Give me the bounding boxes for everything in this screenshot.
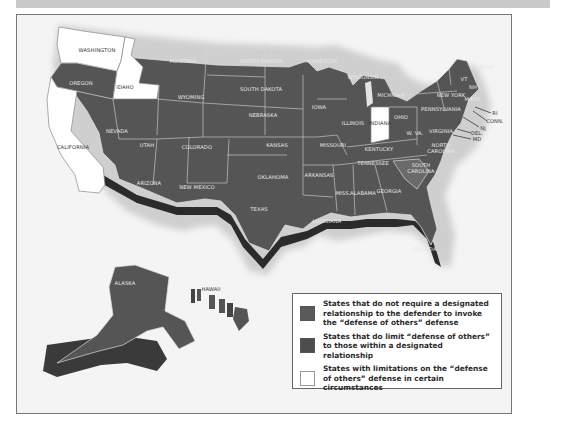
label-massachusetts: MASS. <box>465 96 482 102</box>
label-illinois: ILLINOIS <box>342 120 364 126</box>
label-wyoming: WYOMING <box>178 94 205 100</box>
label-north-dakota: NORTH DAKOTA <box>240 58 282 64</box>
label-texas: TEXAS <box>249 206 267 212</box>
label-iowa: IOWA <box>312 104 327 110</box>
label-connecticut: CONN. <box>486 118 504 124</box>
label-california: CALIFORNIA <box>57 144 90 150</box>
label-idaho: IDAHO <box>116 84 133 90</box>
label-oregon: OREGON <box>69 80 93 86</box>
label-north-carolina-2: CAROLINA <box>427 148 455 154</box>
legend-item-limitations: States with limitations on the “defense … <box>300 364 495 393</box>
label-south-carolina-2: CAROLINA <box>407 168 435 174</box>
legend-item-relationship-limited: States that do limit “defense of others”… <box>300 332 495 361</box>
legend-item-no-relationship-required: States that do not require a designated … <box>300 299 495 328</box>
label-kentucky: KENTUCKY <box>365 146 394 152</box>
label-hawaii: HAWAII <box>201 286 221 292</box>
label-washington: WASHINGTON <box>79 47 116 53</box>
label-mississippi: MISS. <box>336 190 351 196</box>
label-indiana: INDIANA <box>369 120 392 126</box>
state-hawaii <box>191 289 249 331</box>
label-tennessee: TENNESSEE <box>356 160 389 166</box>
label-virginia: VIRGINIA <box>429 128 453 134</box>
label-louisiana: LOUISIANA <box>313 218 342 224</box>
label-west-virginia: W. VA. <box>407 130 424 136</box>
label-new-york: NEW YORK <box>437 92 466 98</box>
label-arkansas: ARKANSAS <box>305 172 334 178</box>
legend-swatch-dark <box>300 306 315 321</box>
label-pennsylvania: PENNSYLVANIA <box>421 106 461 112</box>
top-decorative-bar <box>16 0 550 8</box>
label-colorado: COLORADO <box>182 144 212 150</box>
label-nevada: NEVADA <box>106 128 128 134</box>
label-kansas: KANSAS <box>266 142 288 148</box>
legend-swatch-darker <box>300 338 315 353</box>
label-new-mexico: NEW MEXICO <box>179 184 214 190</box>
label-ohio: OHIO <box>394 114 408 120</box>
label-maine: MAINE <box>476 64 493 70</box>
label-wisconsin: WISCONSIN <box>347 74 378 80</box>
label-oklahoma: OKLAHOMA <box>258 174 289 180</box>
label-alaska: ALASKA <box>115 280 136 286</box>
label-vermont: VT <box>461 76 469 82</box>
label-new-hampshire: NH <box>469 84 477 90</box>
label-missouri: MISSOURI <box>320 142 347 148</box>
label-nebraska: NEBRASKA <box>249 112 278 118</box>
legend-label: States with limitations on the “defense … <box>323 364 495 393</box>
label-michigan: MICHIGAN <box>377 92 404 98</box>
label-maryland: MD <box>473 136 482 142</box>
label-utah: UTAH <box>140 142 154 148</box>
label-florida: FLORIDA <box>413 246 436 252</box>
label-rhode-island: RI <box>492 110 498 116</box>
label-georgia: GEORGIA <box>377 188 402 194</box>
legend-swatch-white <box>300 371 315 386</box>
legend-label: States that do limit “defense of others”… <box>323 332 495 361</box>
label-alabama: ALABAMA <box>350 190 376 196</box>
label-montana: MONTANA <box>170 58 197 64</box>
legend-label: States that do not require a designated … <box>323 299 495 328</box>
label-south-dakota: SOUTH DAKOTA <box>240 86 282 92</box>
label-minnesota: MINNESOTA <box>305 58 337 64</box>
map-legend: States that do not require a designated … <box>292 293 502 389</box>
label-arizona: ARIZONA <box>137 180 162 186</box>
